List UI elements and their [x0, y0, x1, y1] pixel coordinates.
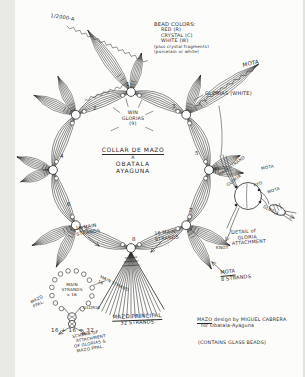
legend-note-porcelain: (porcelain or white) [154, 50, 209, 55]
bead-colors-legend: BEAD COLORS: RED (R) CRYSTAL (C) WHITE (… [154, 21, 209, 55]
credits-line2: for Obatala-Ayaguna [201, 323, 286, 329]
leader-lines [88, 95, 225, 274]
necklace-title: COLLAR DE MAZO A OBATALA AYAGUNA [93, 146, 173, 174]
ring-number-4: 4 [60, 153, 64, 159]
ring-number-6: 6 [67, 201, 71, 207]
ring-number-8: 8 [132, 236, 136, 242]
detail-left-center-line3: x 16 [57, 293, 87, 298]
credits: MAZO design by MIGUEL CABRERA for Obatal… [197, 317, 286, 328]
win-glorias-note: WIN GLORIAS (9) [113, 110, 153, 127]
detail-strand-scheme [50, 269, 106, 334]
title-line4: AYAGUNA [93, 167, 173, 174]
ring-number-7: 7 [189, 207, 193, 213]
title-line1: COLLAR DE MAZO [93, 146, 173, 153]
ring-number-5: 5 [195, 150, 199, 156]
glorias-white-label: GLORIAS (WHITE) [205, 91, 252, 97]
detail-left-gloria-label: GLORIA [83, 306, 100, 311]
ring-number-2: 2 [93, 105, 97, 111]
credits-beads-note: (CONTAINS GLASS BEADS) [198, 340, 266, 346]
detail-left-center-note: MAIN STRANDS x 16 [57, 283, 87, 298]
detail-right-caption: DETAIL of GLORIA ATTACHMENT [231, 228, 266, 247]
ring-number-1: 1 [126, 81, 130, 87]
detail-knot-label: KNOT [216, 246, 229, 251]
win-glorias-line3: (9) [113, 121, 153, 127]
mazo-principal-label: MAZO PRINCIPAL 32 STRANDS [107, 312, 167, 327]
credits-line1-rest: design by MIGUEL CABRERA [212, 317, 286, 322]
ring-number-3: 3 [172, 103, 176, 109]
sketch-page: 1/2000-A BEAD COLORS: RED (R) CRYSTAL (C… [15, 0, 305, 377]
title-line3: OBATALA [93, 160, 173, 167]
